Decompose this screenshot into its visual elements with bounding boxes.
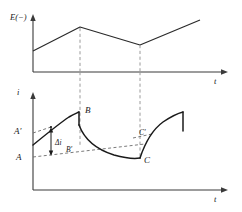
- e-axis-label: E(−): [9, 12, 27, 22]
- top-panel: E(−) t: [9, 12, 228, 86]
- label-b: B: [85, 105, 91, 115]
- top-y-axis-arrowhead: [30, 14, 35, 21]
- current-decay-segment: [79, 125, 140, 158]
- label-a: A: [15, 152, 22, 162]
- figure-root: E(−) t: [0, 0, 242, 212]
- bottom-x-axis-arrowhead: [221, 187, 228, 192]
- label-b-prime: B′: [66, 145, 73, 154]
- label-delta-i: Δi: [54, 138, 62, 147]
- label-a-prime: A′: [13, 126, 22, 136]
- label-c-prime: C′: [139, 128, 146, 137]
- t-axis-label-top: t: [214, 76, 217, 86]
- electrochemistry-figure: E(−) t: [0, 0, 242, 212]
- potential-waveform-trace: [33, 20, 200, 51]
- t-axis-label-bottom: t: [214, 194, 217, 204]
- bottom-y-axis-arrowhead: [30, 92, 35, 99]
- top-x-axis-arrowhead: [221, 69, 228, 74]
- marker-a-prime-point: [50, 126, 52, 128]
- label-c: C: [144, 155, 151, 165]
- delta-i-annotation: [49, 127, 53, 156]
- bottom-panel: i t A′ A B B′ C C′ Δi: [13, 87, 228, 204]
- inter-panel-dashed-lines: [80, 72, 140, 158]
- i-axis-label: i: [17, 87, 20, 97]
